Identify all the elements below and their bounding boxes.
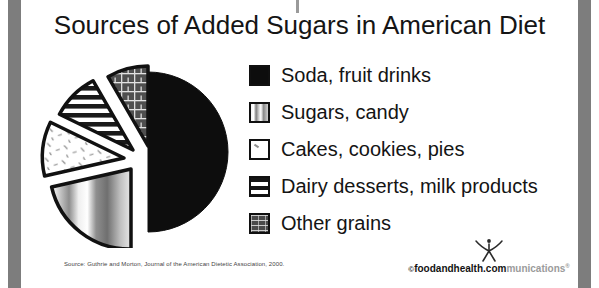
legend-item-soda-fruit-drinks: Soda, fruit drinks (249, 58, 589, 92)
chart-legend: Soda, fruit drinks Sugars, candy Cakes, … (249, 58, 589, 243)
brand-name-secondary: munications (506, 263, 565, 274)
publisher-logo: ©foodandhealth.communications® (404, 238, 574, 275)
legend-swatch-horizontal-stripes-icon (249, 176, 270, 197)
brand-name-primary: foodandhealth.com (414, 263, 506, 274)
stick-figure-icon (472, 238, 506, 262)
legend-label-soda-fruit-drinks: Soda, fruit drinks (281, 64, 431, 86)
pie-slice-soda-fruit-drinks (148, 72, 228, 232)
pie-slice-sugars-candy (52, 169, 131, 248)
page-title: Sources of Added Sugars in American Diet (0, 10, 599, 41)
legend-swatch-white-speckled-icon (249, 139, 270, 160)
legend-label-dairy-desserts: Dairy desserts, milk products (281, 175, 538, 197)
pie-chart (22, 52, 240, 248)
legend-swatch-vertical-gradient-icon (249, 102, 270, 123)
legend-label-other-grains: Other grains (281, 212, 391, 234)
infographic-page: Sources of Added Sugars in American Diet (0, 0, 599, 288)
registered-symbol: ® (565, 263, 569, 269)
legend-item-dairy-desserts: Dairy desserts, milk products (249, 169, 589, 203)
legend-label-cakes-cookies-pies: Cakes, cookies, pies (281, 138, 464, 160)
legend-item-cakes-cookies-pies: Cakes, cookies, pies (249, 132, 589, 166)
legend-swatch-solid-black-icon (249, 65, 270, 86)
legend-item-other-grains: Other grains (249, 206, 589, 240)
scan-edge-left (8, 0, 21, 288)
publisher-wordmark: ©foodandhealth.communications® (404, 261, 574, 275)
legend-swatch-brick-grid-icon (249, 213, 270, 234)
source-citation: Source: Guthrie and Morton, Journal of t… (64, 261, 284, 267)
legend-item-sugars-candy: Sugars, candy (249, 95, 589, 129)
legend-label-sugars-candy: Sugars, candy (281, 101, 409, 123)
